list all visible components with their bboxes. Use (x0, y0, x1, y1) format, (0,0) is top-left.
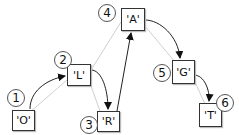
tree-node: 'A' (121, 8, 145, 31)
order-badge: 4 (98, 4, 116, 22)
order-badge: 2 (54, 51, 72, 69)
order-badge: 5 (153, 64, 171, 82)
tree-node: 'R' (97, 111, 120, 132)
order-badge: 1 (7, 89, 25, 107)
order-badge: 6 (216, 94, 234, 112)
order-badge: 3 (80, 116, 98, 134)
tree-node: 'L' (67, 64, 91, 86)
tree-node: 'O' (12, 110, 35, 131)
tree-node: 'G' (172, 60, 195, 84)
